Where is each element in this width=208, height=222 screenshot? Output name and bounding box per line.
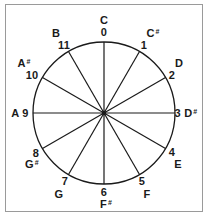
label-number-3-note: 3 D# (175, 108, 198, 119)
label-number-1: 1 (141, 40, 147, 51)
sharp-icon: # (108, 199, 112, 206)
spoke-7 (69, 113, 105, 175)
spoke-10 (43, 78, 105, 114)
spoke-1 (104, 52, 140, 114)
label-number-7: 7 (62, 176, 68, 187)
spoke-2 (104, 78, 166, 114)
label-number-10: 10 (26, 70, 39, 81)
label-note-number-9: A 9 (11, 108, 28, 119)
spoke-4 (104, 113, 166, 149)
label-note-2: D (175, 58, 183, 69)
label-number-11: 11 (58, 40, 70, 51)
label-number-2: 2 (169, 70, 175, 81)
label-note-11: B (52, 28, 60, 39)
label-note-7: G (55, 189, 64, 200)
sharp-icon: # (35, 159, 39, 166)
label-number-0: 0 (101, 27, 107, 38)
label-note-1: C# (146, 28, 159, 39)
label-number-6: 6 (101, 187, 107, 198)
spoke-8 (43, 113, 105, 149)
label-note-8: G# (25, 159, 39, 170)
label-note-5: F (144, 189, 151, 200)
label-note-4: E (174, 159, 182, 170)
sharp-icon: # (193, 108, 197, 115)
spoke-5 (104, 113, 140, 175)
center-dot (102, 111, 106, 115)
label-number-5: 5 (139, 176, 145, 187)
label-note-0: C (100, 15, 108, 26)
spoke-11 (69, 52, 105, 114)
label-number-4: 4 (169, 147, 175, 158)
label-note-10: A# (17, 58, 30, 69)
sharp-icon: # (27, 58, 31, 65)
sharp-icon: # (156, 28, 160, 35)
label-note-6: F# (100, 199, 112, 210)
